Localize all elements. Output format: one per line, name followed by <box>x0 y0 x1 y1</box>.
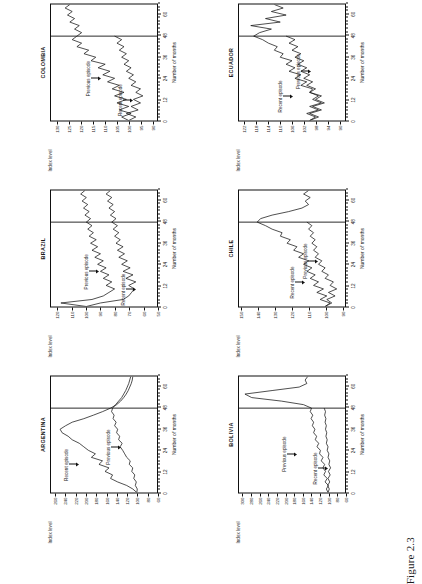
x-minor-tick <box>346 23 348 24</box>
x-minor-tick <box>346 188 348 189</box>
annotation-arrowhead <box>76 462 79 466</box>
y-tick-label: 60 <box>344 497 349 525</box>
x-tick-label: 60 <box>163 383 168 388</box>
x-minor-tick <box>158 31 160 32</box>
x-tick-label: 12 <box>163 97 168 102</box>
x-tick-mark <box>346 220 349 221</box>
x-minor-tick <box>346 421 348 422</box>
x-minor-tick <box>158 252 160 253</box>
x-minor-tick <box>158 431 160 432</box>
y-tick-label: 60 <box>141 311 146 339</box>
x-tick-mark <box>346 471 349 472</box>
x-minor-tick <box>346 2 348 3</box>
y-tick-mark <box>304 121 305 124</box>
y-tick-label: 95 <box>139 125 144 153</box>
plot-area-brazil <box>50 189 158 307</box>
x-tick-mark <box>158 34 161 35</box>
plot-area-ecuador <box>238 3 346 121</box>
x-tick-label: 0 <box>351 120 356 123</box>
x-minor-tick <box>346 488 348 489</box>
x-minor-tick <box>346 446 348 447</box>
x-minor-tick <box>158 38 160 39</box>
x-minor-tick <box>346 45 348 46</box>
x-minor-tick <box>158 227 160 228</box>
panel-argentina: ARGENTINA2602402202001801601401201008060… <box>36 369 184 539</box>
y-tick-label: 260 <box>257 497 262 525</box>
x-minor-tick <box>158 256 160 257</box>
y-tick-label: 200 <box>84 497 89 525</box>
panel-ecuador: ECUADOR122118114110106102989490Index lev… <box>224 0 372 167</box>
x-minor-tick <box>158 410 160 411</box>
y-tick-mark <box>81 121 82 124</box>
annotation-arrowhead <box>302 280 305 284</box>
x-minor-tick <box>346 81 348 82</box>
x-minor-tick <box>158 49 160 50</box>
y-tick-label: 80 <box>112 311 117 339</box>
x-minor-tick <box>158 41 160 42</box>
y-tick-mark <box>72 307 73 310</box>
y-tick-mark <box>340 121 341 124</box>
x-minor-tick <box>346 38 348 39</box>
x-minor-tick <box>346 481 348 482</box>
x-minor-tick <box>158 474 160 475</box>
x-tick-label: 12 <box>163 469 168 474</box>
y-tick-label: 110 <box>103 125 108 153</box>
y-tick-mark <box>294 493 295 496</box>
y-tick-mark <box>258 307 259 310</box>
x-tick-mark <box>158 471 161 472</box>
y-tick-label: 105 <box>115 125 120 153</box>
x-minor-tick <box>158 52 160 53</box>
y-tick-mark <box>100 307 101 310</box>
y-axis-title: Index level <box>48 521 53 543</box>
x-minor-tick <box>346 9 348 10</box>
x-tick-label: 24 <box>163 448 168 453</box>
x-tick-mark <box>346 77 349 78</box>
panel-title-chile: CHILE <box>228 239 234 257</box>
x-minor-tick <box>158 292 160 293</box>
x-minor-tick <box>346 463 348 464</box>
x-tick-label: 60 <box>351 197 356 202</box>
x-minor-tick <box>346 295 348 296</box>
y-tick-label: 130 <box>273 311 278 339</box>
x-tick-mark <box>346 242 349 243</box>
y-tick-label: 100 <box>135 497 140 525</box>
y-axis-title: Index level <box>48 149 53 171</box>
y-tick-label: 70 <box>127 311 132 339</box>
x-minor-tick <box>346 16 348 17</box>
x-minor-tick <box>158 195 160 196</box>
x-minor-tick <box>158 485 160 486</box>
x-tick-mark <box>346 199 349 200</box>
x-minor-tick <box>158 91 160 92</box>
plot-area-bolivia <box>238 375 346 493</box>
x-minor-tick <box>158 388 160 389</box>
x-tick-label: 36 <box>351 54 356 59</box>
x-minor-tick <box>346 381 348 382</box>
x-tick-mark <box>346 449 349 450</box>
x-minor-tick <box>346 213 348 214</box>
plot-area-colombia <box>50 3 158 121</box>
x-minor-tick <box>158 417 160 418</box>
y-tick-mark <box>337 493 338 496</box>
x-minor-tick <box>346 49 348 50</box>
y-tick-mark <box>137 493 138 496</box>
x-tick-label: 60 <box>163 11 168 16</box>
y-tick-label: 120 <box>55 311 60 339</box>
x-minor-tick <box>158 192 160 193</box>
x-tick-mark <box>346 56 349 57</box>
x-minor-tick <box>158 299 160 300</box>
y-tick-label: 110 <box>306 311 311 339</box>
x-minor-tick <box>158 116 160 117</box>
x-minor-tick <box>346 299 348 300</box>
x-minor-tick <box>158 260 160 261</box>
y-tick-label: 110 <box>278 125 283 153</box>
x-tick-label: 48 <box>163 33 168 38</box>
annotation-arrowhead <box>118 445 121 449</box>
x-minor-tick <box>346 52 348 53</box>
y-tick-mark <box>144 307 145 310</box>
x-minor-tick <box>158 224 160 225</box>
x-minor-tick <box>158 206 160 207</box>
y-tick-label: 120 <box>290 311 295 339</box>
x-tick-label: 48 <box>163 405 168 410</box>
x-minor-tick <box>346 410 348 411</box>
x-tick-label: 36 <box>163 426 168 431</box>
